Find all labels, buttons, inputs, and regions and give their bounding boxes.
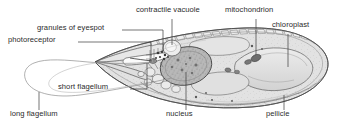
label-nucleus: nucleus xyxy=(166,110,193,118)
label-pellicle: pellicle xyxy=(266,110,290,118)
label-mitochondrion: mitochondrion xyxy=(225,6,273,14)
label-contractile-vacuole: contractile vacuole xyxy=(136,6,200,14)
cell-body xyxy=(95,28,332,108)
mitochondrion-body-4 xyxy=(234,70,239,74)
label-photoreceptor: photoreceptor xyxy=(8,36,56,44)
euglena-diagram: contractile vacuole mitochondrion chloro… xyxy=(0,0,338,131)
label-granules-of-eyespot: granules of eyespot xyxy=(37,24,104,32)
label-long-flagellum: long flagellum xyxy=(10,110,58,118)
label-short-flagellum: short flagellum xyxy=(58,83,108,91)
label-chloroplast: chloroplast xyxy=(272,21,309,29)
